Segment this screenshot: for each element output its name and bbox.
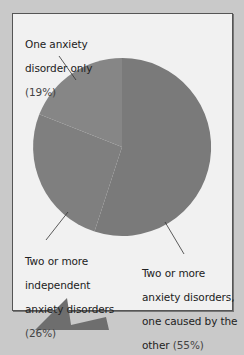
label-percent: (55%) bbox=[173, 339, 204, 351]
label-text: One anxiety bbox=[25, 38, 92, 50]
label-one-only: One anxiety disorder only (19%) bbox=[25, 26, 92, 110]
label-independent: Two or more independent anxiety disorder… bbox=[25, 243, 114, 351]
label-text: disorder only bbox=[25, 62, 92, 74]
label-text: other bbox=[142, 339, 173, 351]
label-text: one caused by the bbox=[142, 315, 237, 327]
label-text: anxiety disorders, bbox=[142, 291, 237, 303]
label-text: anxiety disorders bbox=[25, 303, 114, 315]
label-text: Two or more bbox=[25, 255, 114, 267]
label-percent: (19%) bbox=[25, 86, 92, 98]
leader-line-independent bbox=[46, 212, 68, 240]
label-text: Two or more bbox=[142, 267, 237, 279]
label-text: independent bbox=[25, 279, 114, 291]
leader-line-caused bbox=[165, 222, 184, 254]
label-caused: Two or more anxiety disorders, one cause… bbox=[142, 255, 237, 355]
label-percent: (26%) bbox=[25, 327, 114, 339]
